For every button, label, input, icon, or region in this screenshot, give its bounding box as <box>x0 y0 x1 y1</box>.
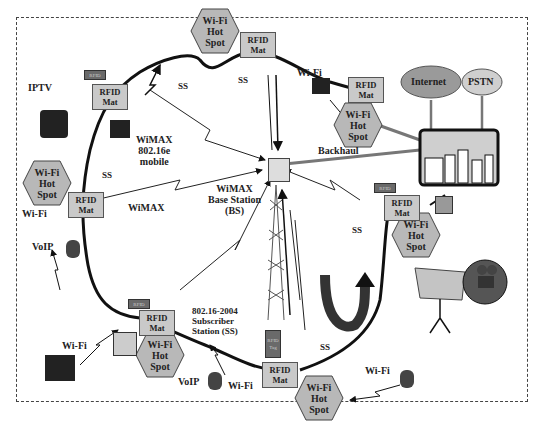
ss-label: SS <box>102 170 112 180</box>
desktop-pc-icon <box>435 196 453 214</box>
subscriber-station-label: 802.16-2004SubscriberStation (SS) <box>192 306 238 336</box>
iptv-label: IPTV <box>28 82 52 93</box>
rfid-mat-top: RFIDMat <box>240 32 276 58</box>
rfid-tag: RFID <box>374 183 396 193</box>
backhaul-label: Backhaul <box>318 145 359 156</box>
rfid-mat-upper-left: RFIDMat <box>92 84 128 110</box>
wifi-label: Wi-Fi <box>297 67 322 78</box>
ss-label: SS <box>352 225 362 235</box>
wifi-hotspot-bottom: Wi-FiHotSpot <box>294 375 344 421</box>
rfid-tag: RFID <box>84 70 106 80</box>
wifi-label: Wi-Fi <box>62 340 87 351</box>
wifi-hotspot-top: Wi-FiHotSpot <box>190 8 240 54</box>
pstn-label: PSTN <box>468 76 494 87</box>
phone-icon <box>208 372 222 390</box>
internet-label: Internet <box>411 76 446 87</box>
voip-label: VoIP <box>178 376 199 387</box>
rfid-tag-vertical: RFIDTag <box>265 330 281 358</box>
rfid-mat-left: RFIDMat <box>68 192 104 218</box>
wimax-mobile-label: WiMAX802.16emobile <box>136 134 172 167</box>
base-station-antenna-icon <box>268 158 290 182</box>
rfid-mat-right: RFIDMat <box>384 195 420 221</box>
laptop-icon <box>45 355 75 381</box>
laptop-icon <box>312 78 330 94</box>
wifi-hotspot-bottom-left: Wi-FiHotSpot <box>135 332 185 378</box>
rfid-mat-bottom: RFIDMat <box>262 362 298 388</box>
ss-label: SS <box>178 81 188 91</box>
access-point-icon <box>113 332 137 356</box>
wifi-hotspot-right-upper: Wi-FiHotSpot <box>333 102 383 148</box>
wifi-hotspot-left: Wi-FiHotSpot <box>22 160 72 206</box>
ss-label: SS <box>320 342 330 352</box>
phone-icon <box>66 240 80 258</box>
rfid-mat-bottom-left: RFIDMat <box>139 310 175 336</box>
rfid-mat-right-upper: RFIDMat <box>348 77 384 103</box>
wimax-label: WiMAX <box>128 202 164 213</box>
wifi-label: Wi-Fi <box>22 208 47 219</box>
base-station-label: WiMAXBase Station(BS) <box>208 183 261 216</box>
voip-label: VoIP <box>32 241 53 252</box>
wifi-label: Wi-Fi <box>228 380 253 391</box>
camcorder-icon <box>40 110 68 138</box>
phone-icon <box>400 370 414 388</box>
network-diagram: Wi-FiHotSpot Wi-FiHotSpot Wi-FiHotSpot W… <box>0 0 542 429</box>
wifi-label: Wi-Fi <box>365 365 390 376</box>
laptop-icon <box>110 120 130 138</box>
ss-label: SS <box>238 75 248 85</box>
rfid-tag: RFID <box>128 299 150 309</box>
